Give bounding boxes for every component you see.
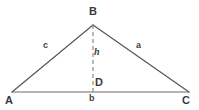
triangle-diagram: A B C D c a b h	[0, 0, 199, 110]
side-label-c: c	[43, 41, 48, 50]
vertex-label-a: A	[5, 95, 13, 106]
vertex-label-b: B	[89, 6, 97, 17]
side-label-a: a	[136, 41, 141, 50]
triangle-side-c-line	[12, 25, 93, 92]
altitude-label-h: h	[94, 47, 100, 57]
side-label-b: b	[89, 94, 95, 103]
vertex-label-d: D	[95, 77, 103, 88]
triangle-side-a-line	[93, 25, 189, 92]
vertex-label-c: C	[182, 95, 190, 106]
